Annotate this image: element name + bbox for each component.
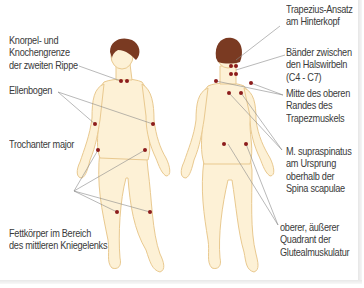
point-supraspinatus-l bbox=[227, 91, 231, 95]
back-hair bbox=[216, 38, 242, 64]
point-ellenbogen-l bbox=[93, 122, 97, 126]
back-figure bbox=[181, 42, 274, 272]
point-hinterkopf-r bbox=[234, 64, 238, 68]
point-gluteal-r bbox=[244, 142, 248, 146]
label-hinterkopf: Trapezius-Ansatz am Hinterkopf bbox=[286, 4, 353, 29]
point-trochanter-l bbox=[96, 148, 100, 152]
point-trapez-r bbox=[249, 81, 253, 85]
label-gluteal: oberer, äußerer Quadrant der Glutealmusk… bbox=[280, 222, 349, 259]
label-rippe: Knorpel- und Knochengrenze der zweiten R… bbox=[9, 35, 78, 72]
point-halswirbel-r bbox=[234, 72, 238, 76]
point-rippe-l bbox=[119, 79, 123, 83]
point-halswirbel-l bbox=[229, 72, 233, 76]
label-supraspinatus: M. supraspinatus am Ursprung oberhalb de… bbox=[286, 146, 352, 196]
point-trapez-l bbox=[214, 79, 218, 83]
point-rippe-r bbox=[125, 79, 129, 83]
point-ellenbogen-r bbox=[151, 122, 155, 126]
label-ellenbogen: Ellenbogen bbox=[9, 85, 52, 97]
label-trochanter: Trochanter major bbox=[9, 139, 74, 151]
point-knie-l bbox=[115, 210, 119, 214]
label-halswirbel: Bänder zwischen den Halswirbeln (C4 - C7… bbox=[286, 47, 352, 84]
point-supraspinatus-r bbox=[239, 91, 243, 95]
point-hinterkopf-l bbox=[229, 64, 233, 68]
label-knie: Fettkörper im Bereich des mittleren Knie… bbox=[9, 228, 107, 253]
point-trochanter-r bbox=[143, 148, 147, 152]
point-knie-r bbox=[148, 210, 152, 214]
point-gluteal-l bbox=[222, 142, 226, 146]
label-trapez: Mitte des oberen Randes des Trapezmuskel… bbox=[286, 88, 350, 125]
